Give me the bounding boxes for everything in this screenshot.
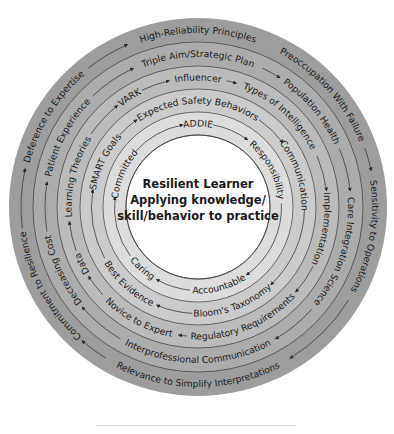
core-circle — [126, 135, 270, 279]
center-line-1: Resilient Learner — [142, 177, 253, 191]
center-line-2: Applying knowledge/ — [130, 193, 267, 207]
center-line-3: skill/behavior to practice — [117, 209, 279, 223]
ring-label: ADDIE — [182, 117, 214, 129]
footer-divider — [96, 425, 296, 426]
resilient-learner-diagram: High-Reliability PrinciplesPreoccupation… — [0, 0, 394, 434]
